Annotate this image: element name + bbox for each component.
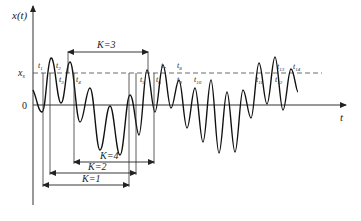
crossing-label-t3: t3 — [59, 75, 64, 85]
interval-label-k4: K=4 — [99, 150, 118, 161]
crossing-label-t5: t5 — [140, 75, 145, 85]
crossing-label-t7: t7 — [161, 61, 166, 71]
crossing-label-t13: t13 — [277, 62, 285, 72]
interval-label-k2: K=2 — [87, 161, 106, 172]
interval-label-k3: K=3 — [96, 39, 115, 50]
x-axis-label: t — [340, 111, 344, 123]
origin-label: 0 — [22, 100, 27, 111]
crossing-label-t1: t1 — [38, 61, 43, 71]
threshold-label: xs — [17, 67, 25, 79]
crossing-label-t8: t8 — [177, 61, 182, 71]
crossing-label-t4: t4 — [76, 75, 81, 85]
signal-waveform — [33, 57, 298, 155]
y-axis-label: x(t) — [11, 9, 28, 22]
crossing-label-t10: t10 — [194, 75, 202, 85]
crossing-label-t9: t9 — [177, 75, 182, 85]
crossing-label-t2: t2 — [56, 61, 61, 71]
level-crossing-diagram: x(t) t 0 xs K=3 K=4 K=2 K=1 t1 t2 t3 t4 … — [0, 0, 361, 221]
crossing-label-t14: t14 — [293, 62, 301, 72]
interval-label-k1: K=1 — [81, 173, 100, 184]
